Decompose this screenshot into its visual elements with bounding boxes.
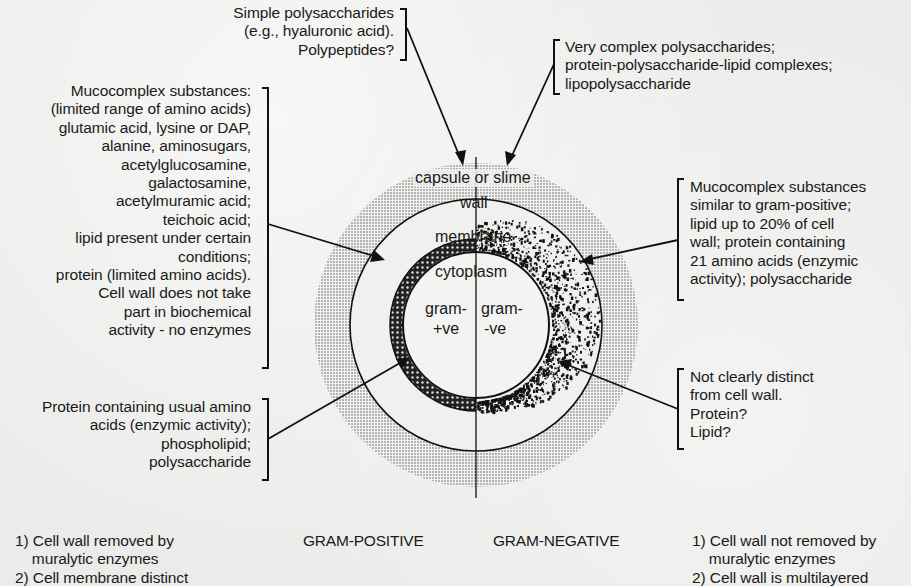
- bracket-wall-gp: [262, 88, 268, 368]
- speckle-dot: [494, 250, 496, 252]
- speckle-dot: [534, 256, 536, 259]
- speckle-dot: [557, 371, 558, 372]
- speckle-dot: [579, 294, 581, 296]
- speckle-dot: [550, 243, 551, 244]
- speckle-dot: [513, 257, 515, 258]
- speckle-dot: [585, 364, 588, 368]
- speckle-dot: [537, 252, 539, 255]
- speckle-dot: [539, 252, 540, 254]
- speckle-dot: [526, 253, 528, 255]
- speckle-dot: [538, 380, 540, 382]
- label-capsule: capsule or slime: [413, 169, 533, 187]
- speckle-dot: [567, 255, 569, 256]
- speckle-dot: [561, 298, 563, 302]
- speckle-dot: [548, 295, 549, 296]
- speckle-dot: [553, 329, 555, 331]
- speckle-dot: [565, 255, 567, 257]
- speckle-dot: [551, 309, 552, 310]
- speckle-dot: [569, 246, 571, 248]
- speckle-dot: [478, 248, 479, 249]
- speckle-dot: [554, 279, 555, 280]
- speckle-dot: [535, 374, 536, 376]
- speckle-dot: [593, 339, 595, 342]
- speckle-dot: [549, 396, 551, 399]
- speckle-dot: [497, 405, 499, 407]
- speckle-dot: [486, 249, 488, 251]
- speckle-dot: [545, 370, 547, 372]
- speckle-dot: [582, 324, 583, 325]
- speckle-dot: [582, 296, 583, 298]
- callout-line: Mucocomplex substances: [690, 178, 866, 196]
- speckle-dot: [580, 292, 581, 294]
- speckle-dot: [547, 254, 548, 255]
- speckle-dot: [482, 401, 484, 403]
- callout-line: glutamic acid, lysine or DAP,: [51, 119, 251, 137]
- speckle-dot: [543, 361, 544, 363]
- speckle-dot: [552, 320, 553, 321]
- speckle-dot: [582, 362, 584, 364]
- speckle-dot: [552, 303, 553, 304]
- speckle-dot: [576, 319, 577, 321]
- callout-line: activity); polysaccharide: [690, 270, 866, 288]
- title-gram-negative: GRAM-NEGATIVE: [493, 532, 619, 550]
- callout-line: lipopolysaccharide: [565, 75, 832, 93]
- speckle-dot: [557, 289, 559, 291]
- speckle-dot: [564, 273, 567, 276]
- speckle-dot: [585, 338, 586, 340]
- speckle-dot: [570, 327, 571, 328]
- speckle-dot: [553, 375, 555, 377]
- callout-line: 1) Cell wall removed by: [15, 532, 188, 550]
- speckle-dot: [528, 248, 529, 249]
- speckle-dot: [501, 404, 504, 407]
- speckle-dot: [552, 322, 553, 323]
- speckle-dot: [552, 324, 554, 327]
- callout-wall-gram-negative: Mucocomplex substancessimilar to gram-po…: [690, 178, 866, 288]
- speckle-dot: [554, 378, 556, 380]
- speckle-dot: [555, 325, 557, 327]
- callout-wall-gram-positive: Mucocomplex substances:(limited range of…: [51, 82, 251, 340]
- speckle-dot: [566, 319, 568, 321]
- speckle-dot: [547, 364, 549, 366]
- speckle-dot: [556, 276, 559, 280]
- speckle-dot: [598, 307, 600, 308]
- speckle-dot: [558, 337, 560, 339]
- speckle-dot: [541, 284, 542, 285]
- speckle-dot: [551, 299, 553, 301]
- speckle-dot: [540, 281, 542, 282]
- speckle-dot: [541, 228, 543, 230]
- callout-line: galactosamine,: [51, 174, 251, 192]
- speckle-dot: [514, 397, 515, 398]
- speckle-dot: [479, 249, 481, 251]
- speckle-dot: [559, 388, 560, 389]
- speckle-dot: [526, 394, 528, 397]
- speckle-dot: [547, 231, 549, 233]
- speckle-dot: [510, 397, 512, 400]
- speckle-dot: [533, 401, 534, 402]
- speckle-dot: [570, 375, 572, 378]
- speckle-dot: [563, 322, 564, 323]
- speckle-dot: [559, 295, 561, 298]
- speckle-dot: [530, 384, 532, 386]
- speckle-dot: [554, 267, 556, 269]
- speckle-dot: [543, 366, 544, 367]
- speckle-dot: [553, 382, 555, 383]
- speckle-dot: [548, 370, 550, 373]
- speckle-dot: [579, 288, 581, 289]
- speckle-dot: [524, 226, 526, 228]
- speckle-dot: [544, 250, 546, 252]
- speckle-dot: [556, 309, 559, 312]
- speckle-dot: [567, 326, 568, 327]
- speckle-dot: [578, 300, 579, 301]
- speckle-dot: [567, 382, 569, 385]
- speckle-dot: [574, 269, 575, 271]
- speckle-dot: [572, 329, 574, 333]
- arrow-capsule-gn-head: [505, 151, 516, 166]
- callout-line: polysaccharide: [42, 453, 251, 471]
- speckle-dot: [532, 267, 534, 270]
- speckle-dot: [544, 394, 545, 395]
- speckle-dot: [580, 351, 582, 354]
- speckle-dot: [534, 396, 536, 398]
- speckle-dot: [562, 373, 564, 376]
- speckle-dot: [592, 344, 594, 346]
- speckle-dot: [521, 228, 522, 230]
